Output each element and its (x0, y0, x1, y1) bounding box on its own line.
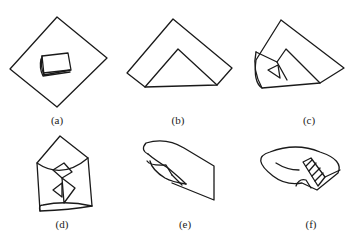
panel-b-drawing (127, 19, 232, 87)
panel-e-label: (e) (165, 218, 205, 230)
panel-c-drawing (255, 20, 344, 88)
panel-e-drawing (143, 141, 214, 200)
panel-f-drawing (261, 147, 340, 190)
panel-b-label: (b) (158, 114, 198, 126)
panel-f-label: (f) (291, 218, 331, 230)
panel-a-label: (a) (37, 114, 77, 126)
panel-d-drawing (37, 136, 92, 211)
panel-d-label: (d) (42, 218, 82, 230)
panel-c-label: (c) (289, 114, 329, 126)
panel-a-drawing (10, 17, 107, 107)
